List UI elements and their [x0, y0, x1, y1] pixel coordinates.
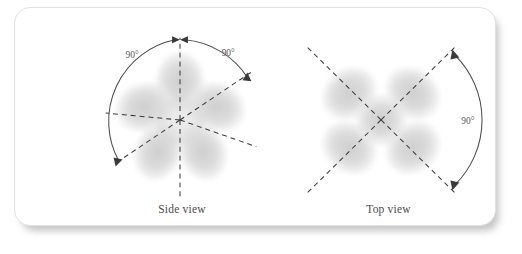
- arrowhead-left-end: [114, 158, 123, 167]
- panels-container: 90° 90° Side view: [15, 8, 495, 225]
- figure-root: 90° 90° Side view: [0, 0, 522, 254]
- top-view-diagram: 90°: [281, 8, 496, 225]
- top-view-angle-right: 90°: [450, 50, 482, 191]
- figure-card: 90° 90° Side view: [14, 7, 496, 226]
- side-angle-right-label: 90°: [222, 48, 235, 58]
- top-view-caption: Top view: [281, 203, 496, 215]
- side-view-caption: Side view: [67, 203, 297, 215]
- side-view-diagram: 90° 90°: [67, 8, 297, 225]
- arrowhead-left-start: [172, 36, 180, 43]
- top-view-axes: [306, 46, 457, 195]
- arrowhead-right-end: [242, 72, 251, 81]
- top-angle-right-label: 90°: [461, 116, 474, 126]
- arrowhead-right-start: [180, 36, 188, 43]
- panel-top-view: 90° Top view: [281, 8, 496, 225]
- panel-side-view: 90° 90° Side view: [67, 8, 297, 225]
- side-angle-left-label: 90°: [126, 50, 139, 60]
